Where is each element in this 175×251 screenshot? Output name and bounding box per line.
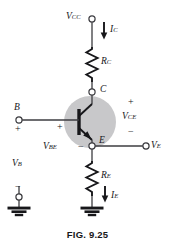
- ground-symbol-base-icon: [8, 207, 31, 217]
- collector-terminal-node[interactable]: [89, 89, 95, 95]
- label-ve-sub: E: [157, 142, 161, 149]
- label-ve: VE: [151, 141, 161, 151]
- label-ic-sub: C: [113, 26, 117, 33]
- label-vb-sub: B: [18, 160, 22, 167]
- sign-vb-minus: −: [15, 182, 21, 192]
- label-vce-sub: CE: [128, 113, 136, 120]
- sign-base-line-plus: +: [57, 122, 63, 132]
- label-vcc-sub: CC: [72, 13, 81, 20]
- label-emitter-node: E: [99, 136, 105, 146]
- label-ie: IE: [111, 191, 118, 201]
- sign-vbe-minus: −: [78, 142, 84, 152]
- label-vcc: VCC: [66, 12, 81, 22]
- label-vbe-sub: BE: [49, 143, 57, 150]
- label-ie-sub: E: [114, 192, 118, 199]
- label-vb: VB: [12, 159, 22, 169]
- collector-current-arrow-icon: [101, 22, 108, 40]
- label-collector-node: C: [100, 85, 106, 95]
- emitter-current-arrow-icon: [102, 186, 109, 203]
- label-base-node: B: [14, 103, 20, 113]
- collector-resistor-symbol: [86, 47, 97, 82]
- label-rc-sub: C: [107, 58, 111, 65]
- figure-container: VCC IC RC C B + + VBE − E + VCE − VE VB …: [0, 0, 175, 251]
- emitter-resistor-symbol: [86, 161, 97, 196]
- emitter-terminal-node[interactable]: [89, 143, 95, 149]
- label-re-sub: E: [107, 172, 111, 179]
- ground-symbol-emitter-icon: [81, 207, 104, 217]
- label-re: RE: [101, 171, 111, 181]
- sign-base-terminal-plus: +: [15, 124, 21, 134]
- vb-source-terminal-node[interactable]: [16, 194, 22, 200]
- transistor-shading-disc: [64, 96, 116, 148]
- sign-vce-minus: −: [128, 127, 134, 137]
- label-vbe: VBE: [43, 142, 57, 152]
- circuit-schematic: [0, 0, 175, 251]
- sign-vce-plus: +: [128, 97, 134, 107]
- ve-terminal-node[interactable]: [143, 143, 149, 149]
- label-rc: RC: [101, 57, 111, 67]
- vcc-terminal-node[interactable]: [89, 16, 95, 22]
- label-vce: VCE: [122, 112, 136, 122]
- label-ic: IC: [110, 25, 118, 35]
- figure-caption: FIG. 9.25: [0, 229, 175, 240]
